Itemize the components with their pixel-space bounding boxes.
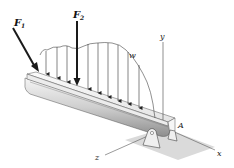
- label-f2: F2: [72, 9, 84, 21]
- label-f1: F1: [13, 17, 25, 29]
- beam: [25, 72, 175, 137]
- label-w: w: [129, 51, 136, 60]
- label-x: x: [217, 149, 222, 158]
- label-z: z: [94, 153, 100, 162]
- force-f2-arrow: [74, 21, 81, 86]
- force-f1-arrow: [13, 28, 39, 72]
- beam-diagram: F1 F2 w y A x z: [0, 0, 234, 168]
- label-a: A: [177, 121, 184, 130]
- label-y: y: [159, 32, 165, 41]
